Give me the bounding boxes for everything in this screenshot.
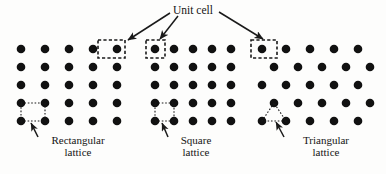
lattice-dot <box>170 117 179 126</box>
lattice-dot <box>354 81 363 90</box>
lattice-dot <box>227 99 236 108</box>
lattice-dot <box>342 99 351 108</box>
lattice-dot <box>354 117 363 126</box>
lattice-dot <box>170 99 179 108</box>
lattice-dot <box>170 63 179 72</box>
lattice-dot <box>113 81 122 90</box>
lattice-dot <box>65 81 74 90</box>
caption-triangular-line1: Triangular <box>303 134 349 146</box>
lattice-dot <box>89 63 98 72</box>
lattice-dot <box>282 81 291 90</box>
lattice-dot-groups <box>17 45 375 126</box>
caption-rectangular-line1: Rectangular <box>51 134 104 146</box>
caption-square-line1: Square <box>181 134 212 146</box>
lattice-dot <box>342 63 351 72</box>
unit-cell-title-text: Unit cell <box>173 4 213 16</box>
lattice-dot <box>113 45 122 54</box>
lattice-dot <box>89 99 98 108</box>
lattice-dot <box>227 63 236 72</box>
lattice-dot <box>151 45 160 54</box>
lattice-dot <box>65 63 74 72</box>
lattice-dot <box>258 81 267 90</box>
lattice-dot <box>41 81 50 90</box>
lattice-dot <box>366 99 375 108</box>
lattice-dot <box>41 63 50 72</box>
lattice-dot <box>89 45 98 54</box>
lattice-dot <box>366 63 375 72</box>
lattice-dot <box>330 117 339 126</box>
lattice-dot <box>227 45 236 54</box>
caption-square-line2: lattice <box>146 146 246 158</box>
lattice-dot <box>227 117 236 126</box>
caption-rectangular: Rectangular lattice <box>18 134 138 159</box>
lattice-triangular <box>258 45 375 126</box>
lattice-dot <box>113 117 122 126</box>
lattice-dot <box>189 117 198 126</box>
caption-square: Square lattice <box>146 134 246 159</box>
lattice-dot <box>17 81 26 90</box>
lattice-dot <box>65 117 74 126</box>
lattice-dot <box>89 81 98 90</box>
lattice-dot <box>330 81 339 90</box>
lattice-dot <box>65 45 74 54</box>
lattice-dot <box>306 81 315 90</box>
lattice-dot <box>151 63 160 72</box>
lattice-dot <box>41 45 50 54</box>
lattice-dot <box>294 99 303 108</box>
caption-rectangular-line2: lattice <box>18 146 138 158</box>
lattice-dot <box>151 81 160 90</box>
lattice-dot <box>294 63 303 72</box>
lattice-dot <box>170 45 179 54</box>
lattice-dot <box>330 45 339 54</box>
lattice-dot <box>208 45 217 54</box>
lattice-dot <box>318 99 327 108</box>
unit-cell-title: Unit cell <box>0 4 386 17</box>
lattice-dot <box>306 45 315 54</box>
lattice-dot <box>17 63 26 72</box>
lattice-square <box>151 45 236 126</box>
lattice-dot <box>65 99 74 108</box>
lattice-dot <box>189 45 198 54</box>
lattice-dot <box>89 117 98 126</box>
lattice-dot <box>306 117 315 126</box>
lattice-dot <box>282 45 291 54</box>
caption-triangular-line2: lattice <box>268 146 384 158</box>
arrow-to-square <box>160 16 178 39</box>
lattice-dot <box>258 45 267 54</box>
lattice-dot <box>318 63 327 72</box>
lattice-dot <box>208 81 217 90</box>
lattice-rectangular <box>17 45 122 126</box>
lattice-dot <box>189 99 198 108</box>
lattice-dot <box>113 63 122 72</box>
arrow-to-rectangular <box>128 13 170 40</box>
figure-canvas: Unit cell Rectangular lattice Square lat… <box>0 0 386 174</box>
lattice-dot <box>208 117 217 126</box>
lattice-dot <box>170 81 179 90</box>
lattice-dot <box>189 81 198 90</box>
lattice-dot <box>189 63 198 72</box>
lattice-dot <box>17 45 26 54</box>
lattice-dot <box>227 81 236 90</box>
lattice-dot <box>113 99 122 108</box>
lattice-dot <box>208 99 217 108</box>
lattice-dot <box>354 45 363 54</box>
lattice-dot <box>208 63 217 72</box>
caption-triangular: Triangular lattice <box>268 134 384 159</box>
lattice-dot <box>270 63 279 72</box>
unit-cell-outline-rectangular <box>21 103 45 121</box>
